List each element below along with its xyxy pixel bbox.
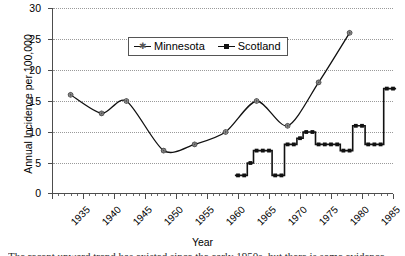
- x-minor-tick: [244, 194, 245, 196]
- scotland-point: [360, 124, 364, 128]
- minnesota-point: [124, 98, 129, 103]
- y-tick-label-0: 0: [17, 188, 41, 198]
- x-minor-tick: [102, 194, 103, 196]
- x-tickmark-1980: [331, 194, 332, 199]
- x-tickmark-1960: [207, 194, 208, 199]
- scotland-point: [267, 149, 271, 153]
- data-series-layer: [52, 8, 393, 194]
- x-minor-tick: [188, 194, 189, 196]
- x-minor-tick: [275, 194, 276, 196]
- x-tickmark-1970: [269, 194, 270, 199]
- scotland-point: [298, 136, 302, 140]
- x-axis-title: Year: [0, 236, 405, 248]
- scotland-point: [292, 143, 296, 147]
- scotland-point: [242, 174, 246, 178]
- x-tickmark-1950: [145, 194, 146, 199]
- minnesota-point: [99, 111, 104, 116]
- x-tick-label-1940: 1940: [100, 204, 124, 228]
- x-minor-tick: [108, 194, 109, 196]
- scotland-point: [317, 143, 321, 147]
- x-minor-tick: [232, 194, 233, 196]
- scotland-point: [255, 149, 259, 153]
- x-minor-tick: [133, 194, 134, 196]
- x-tick-label-1985: 1985: [379, 204, 403, 228]
- x-minor-tick: [182, 194, 183, 196]
- x-tickmark-1945: [114, 194, 115, 199]
- scotland-point: [236, 174, 240, 178]
- scotland-point: [379, 143, 383, 147]
- legend-item-scotland[interactable]: Scotland: [218, 40, 281, 52]
- scotland-point: [354, 124, 358, 128]
- scotland-point: [385, 87, 389, 91]
- minnesota-point: [223, 129, 228, 134]
- minnesota-point: [254, 98, 259, 103]
- x-minor-tick: [343, 194, 344, 196]
- x-minor-tick: [58, 194, 59, 196]
- scotland-point: [280, 174, 284, 178]
- x-tickmark-1940: [83, 194, 84, 199]
- figure-caption: The recent upward trend has existed sinc…: [8, 250, 400, 256]
- figure: Annual Incidence per 100,000 30 25 20 15…: [0, 0, 405, 256]
- scotland-point: [391, 87, 395, 91]
- x-minor-tick: [381, 194, 382, 196]
- legend-label-minnesota: Minnesota: [154, 40, 205, 52]
- x-minor-tick: [157, 194, 158, 196]
- x-minor-tick: [213, 194, 214, 196]
- plot-area: 30 25 20 15 10 5 0: [52, 8, 393, 194]
- minnesota-point: [161, 148, 166, 153]
- x-tickmark-1990: [393, 194, 394, 199]
- minnesota-point: [68, 92, 73, 97]
- minnesota-point: [285, 123, 290, 128]
- scotland-point: [373, 143, 377, 147]
- x-minor-tick: [319, 194, 320, 196]
- x-minor-tick: [89, 194, 90, 196]
- x-minor-tick: [170, 194, 171, 196]
- legend-item-minnesota[interactable]: ✱ Minnesota: [134, 40, 205, 52]
- y-tick-label-15: 15: [17, 96, 41, 106]
- x-minor-tick: [164, 194, 165, 196]
- x-minor-tick: [288, 194, 289, 196]
- x-minor-tick: [64, 194, 65, 196]
- x-minor-tick: [219, 194, 220, 196]
- x-minor-tick: [325, 194, 326, 196]
- x-tickmark-1955: [176, 194, 177, 199]
- y-tick-label-10: 10: [17, 127, 41, 137]
- x-minor-tick: [139, 194, 140, 196]
- x-minor-tick: [350, 194, 351, 196]
- x-tickmark-1985: [362, 194, 363, 199]
- scotland-point: [304, 130, 308, 134]
- x-minor-tick: [71, 194, 72, 196]
- scotland-marker-icon: [218, 42, 235, 51]
- x-minor-tick: [312, 194, 313, 196]
- x-minor-tick: [356, 194, 357, 196]
- x-minor-tick: [281, 194, 282, 196]
- scotland-point: [261, 149, 265, 153]
- x-minor-tick: [368, 194, 369, 196]
- x-tick-label-1935: 1935: [69, 204, 93, 228]
- scotland-point: [342, 149, 346, 153]
- x-tick-label-1945: 1945: [131, 204, 155, 228]
- scotland-point: [249, 161, 253, 165]
- x-tickmark-1935: [52, 194, 53, 199]
- scotland-point: [273, 174, 277, 178]
- scotland-point: [311, 130, 315, 134]
- minnesota-point: [316, 80, 321, 85]
- x-minor-tick: [294, 194, 295, 196]
- scotland-point: [366, 143, 370, 147]
- y-tick-label-5: 5: [17, 158, 41, 168]
- x-minor-tick: [120, 194, 121, 196]
- minnesota-point: [347, 30, 352, 35]
- x-tick-label-1950: 1950: [162, 204, 186, 228]
- x-tick-label-1955: 1955: [193, 204, 217, 228]
- y-tick-label-30: 30: [17, 3, 41, 13]
- x-minor-tick: [151, 194, 152, 196]
- x-minor-tick: [374, 194, 375, 196]
- x-minor-tick: [250, 194, 251, 196]
- x-tick-label-1960: 1960: [224, 204, 248, 228]
- x-tickmark-1965: [238, 194, 239, 199]
- x-minor-tick: [195, 194, 196, 196]
- x-tick-label-1970: 1970: [286, 204, 310, 228]
- y-tick-label-20: 20: [17, 65, 41, 75]
- x-minor-tick: [263, 194, 264, 196]
- x-minor-tick: [201, 194, 202, 196]
